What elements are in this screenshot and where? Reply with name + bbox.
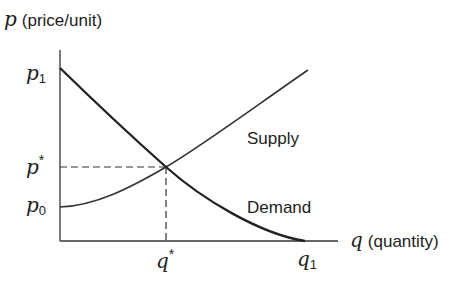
p0-label: p0 [26, 193, 46, 218]
q-star-label: q* [156, 246, 175, 273]
demand-label: Demand [247, 198, 311, 217]
p-star-label: p* [26, 152, 45, 179]
supply-demand-diagram: p(price/unit) Supply Demand p1 p* p0 q* … [0, 0, 465, 284]
y-axis-unit: (price/unit) [22, 11, 102, 30]
p1-label: p1 [26, 61, 46, 86]
x-axis-label: q(quantity) [350, 228, 439, 252]
y-axis-label: p(price/unit) [4, 7, 102, 31]
y-axis-symbol: p [4, 7, 17, 31]
supply-label: Supply [247, 129, 299, 148]
q1-label: q1 [297, 247, 317, 272]
x-axis-symbol: q [350, 228, 363, 252]
x-axis-unit: (quantity) [368, 232, 439, 251]
